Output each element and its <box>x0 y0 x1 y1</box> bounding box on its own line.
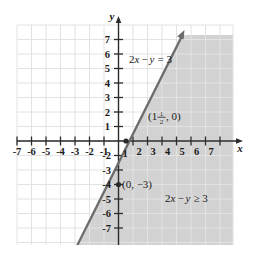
y-tick-label: -4 <box>102 179 111 190</box>
x-tick-label: -4 <box>56 146 65 157</box>
x-intercept-label-open: (1 <box>148 110 157 123</box>
coordinate-plane-svg: -7 -6 -5 -4 -3 -2 -1 1 2 3 4 5 6 7 7 6 5… <box>0 0 255 261</box>
x-tick-label: 2 <box>136 146 141 157</box>
y-tick-label: 7 <box>105 34 110 45</box>
y-tick-label: 2 <box>105 107 110 118</box>
x-tick-label: -6 <box>27 146 36 157</box>
x-tick-label: 3 <box>150 146 155 157</box>
y-axis-arrow <box>116 16 122 23</box>
point-y-intercept <box>116 182 121 187</box>
y-tick-label: 3 <box>105 92 110 103</box>
y-tick-label: -6 <box>102 208 111 219</box>
x-tick-label: 7 <box>208 146 213 157</box>
x-tick-label: -3 <box>71 146 80 157</box>
x-intercept-label-close: , 0) <box>166 110 181 123</box>
y-tick-label: -7 <box>102 223 111 234</box>
fraction-numerator: 1 <box>160 110 164 118</box>
fraction-denominator: 2 <box>160 118 164 126</box>
x-tick-label: 1 <box>122 148 127 159</box>
y-tick-label: -5 <box>102 194 111 205</box>
x-tick-label: -2 <box>85 146 94 157</box>
x-axis-label: x <box>236 142 243 154</box>
y-tick-label: 1 <box>105 121 110 132</box>
x-tick-label: 4 <box>165 146 171 157</box>
inequality-region-label: 2x−y≥ 3 <box>165 192 208 204</box>
graph-figure: -7 -6 -5 -4 -3 -2 -1 1 2 3 4 5 6 7 7 6 5… <box>0 0 255 261</box>
y-intercept-label: (0, −3) <box>122 178 152 191</box>
x-tick-label: -5 <box>42 146 51 157</box>
line-equation-label: 2x−y= 3 <box>129 53 172 65</box>
x-tick-label: -7 <box>13 146 22 157</box>
point-x-intercept <box>123 138 128 143</box>
y-tick-label: 6 <box>105 49 110 60</box>
y-tick-label: 4 <box>105 78 111 89</box>
y-axis-label: y <box>108 10 115 22</box>
x-tick-label: 5 <box>179 146 184 157</box>
x-tick-label: 6 <box>194 146 199 157</box>
y-tick-label: -2 <box>102 150 111 161</box>
y-tick-label: 5 <box>105 63 110 74</box>
y-tick-label: -3 <box>102 165 111 176</box>
